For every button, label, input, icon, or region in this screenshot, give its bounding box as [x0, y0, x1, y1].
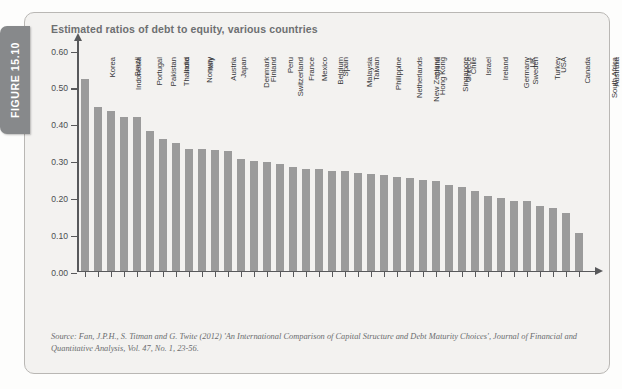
- x-axis-tick: [176, 272, 177, 277]
- x-axis-tick-label: Japan: [239, 57, 248, 78]
- x-axis-tick: [358, 272, 359, 277]
- bar-cell: [560, 50, 573, 271]
- bar: [120, 117, 128, 271]
- bar: [133, 117, 141, 271]
- x-axis-tick-label: Chile: [470, 57, 479, 74]
- x-axis-tick: [215, 272, 216, 277]
- y-axis-tick: [71, 88, 77, 89]
- x-axis-tick: [293, 272, 294, 277]
- x-axis-tick: [280, 272, 281, 277]
- figure-page: FIGURE 15.10 Estimated ratios of debt to…: [0, 0, 622, 389]
- y-axis-tick-label: 0.30: [51, 157, 68, 167]
- x-axis-tick: [254, 272, 255, 277]
- x-axis-tick: [345, 272, 346, 277]
- x-axis-tick-label: Israel: [484, 57, 493, 76]
- x-axis-tick: [241, 272, 242, 277]
- bar: [445, 185, 453, 270]
- bar: [354, 173, 362, 271]
- bar: [536, 206, 544, 270]
- x-axis-tick-label: Korea: [108, 57, 117, 77]
- y-axis-arrow-icon: [74, 33, 82, 41]
- x-axis-tick-label: Peru: [286, 57, 295, 73]
- x-axis-tick: [98, 272, 99, 277]
- x-axis-tick-label: Mexico: [320, 57, 329, 81]
- x-axis-tick: [501, 272, 502, 277]
- bar: [458, 187, 466, 270]
- bar: [367, 174, 375, 271]
- bar-cell: [469, 50, 482, 271]
- y-axis-tick: [71, 199, 77, 200]
- bar: [380, 175, 388, 270]
- bar: [224, 151, 232, 270]
- bar: [159, 139, 167, 270]
- y-axis-tick-label: 0.00: [51, 268, 68, 278]
- bar: [471, 191, 479, 271]
- x-axis-tick-label: Pakistan: [169, 57, 178, 86]
- bar: [549, 208, 557, 271]
- y-axis-tick-label: 0.50: [51, 83, 68, 93]
- x-axis-tick-label: Switzerland: [296, 57, 305, 96]
- x-axis-tick-label: China: [433, 57, 442, 77]
- bar: [432, 181, 440, 271]
- x-axis-tick: [150, 272, 151, 277]
- x-axis-tick: [462, 272, 463, 277]
- bar: [497, 198, 505, 270]
- bar: [172, 143, 180, 270]
- source-citation: Source: Fan, J.P.H., S. Titman and G. Tw…: [51, 331, 591, 354]
- plot-area: 0.000.100.200.300.400.500.60 KoreaIndone…: [77, 50, 595, 272]
- bar: [107, 111, 115, 270]
- y-axis-tick-label: 0.60: [51, 47, 68, 57]
- x-axis-tick: [319, 272, 320, 277]
- bar-cell: [105, 50, 118, 271]
- x-axis-tick: [397, 272, 398, 277]
- bar-cell: [274, 50, 287, 271]
- x-axis-line: [77, 271, 595, 273]
- bar-cell: [313, 50, 326, 271]
- x-axis-tick: [371, 272, 372, 277]
- bar-cell: [378, 50, 391, 271]
- bar: [289, 167, 297, 271]
- x-axis-tick: [306, 272, 307, 277]
- y-axis-tick: [71, 162, 77, 163]
- x-axis-tick: [189, 272, 190, 277]
- x-axis-tick-label: Canada: [583, 57, 592, 84]
- bar: [302, 169, 310, 271]
- x-axis-tick-label: Portugal: [155, 57, 164, 85]
- y-axis-tick: [71, 273, 77, 274]
- x-axis-tick-label: USA: [559, 57, 568, 73]
- bar: [575, 233, 583, 270]
- y-axis-tick: [71, 236, 77, 237]
- x-axis-tick-label: UK: [528, 57, 537, 68]
- bar: [211, 150, 219, 270]
- x-axis-tick: [202, 272, 203, 277]
- x-axis-tick: [332, 272, 333, 277]
- x-axis-tick: [475, 272, 476, 277]
- bar-cell: [235, 50, 248, 271]
- bar: [562, 213, 570, 270]
- x-axis-tick: [579, 272, 580, 277]
- bar: [523, 201, 531, 271]
- x-axis-tick-label: Netherlands: [415, 57, 424, 98]
- x-axis-tick-label: Taiwan: [372, 57, 381, 81]
- bar: [276, 164, 284, 270]
- x-axis-tick-label: Finland: [269, 57, 278, 82]
- x-axis-tick-label: Spain: [342, 57, 351, 76]
- x-axis-tick: [85, 272, 86, 277]
- y-axis-tick-label: 0.10: [51, 231, 68, 241]
- bar-cell: [495, 50, 508, 271]
- bar-cell: [482, 50, 495, 271]
- bar: [81, 79, 89, 271]
- bar: [510, 201, 518, 271]
- figure-number-label: FIGURE 15.10: [9, 42, 21, 118]
- x-axis-tick: [384, 272, 385, 277]
- bar: [406, 178, 414, 270]
- x-axis-tick-label: Brazil: [133, 57, 142, 76]
- x-axis-tick: [449, 272, 450, 277]
- x-axis-tick-label: Ireland: [501, 57, 510, 80]
- x-axis-tick-label: Philippine: [394, 57, 403, 90]
- bar-cell: [222, 50, 235, 271]
- x-axis-arrow-icon: [595, 267, 603, 275]
- x-axis-tick: [540, 272, 541, 277]
- bar: [315, 169, 323, 271]
- bar: [185, 149, 193, 271]
